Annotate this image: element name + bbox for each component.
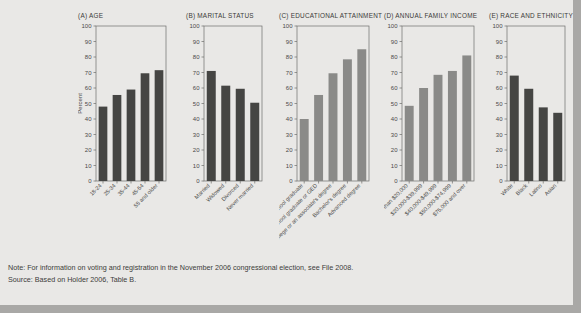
y-tick-label: 80: [391, 54, 398, 60]
y-tick-label: 20: [496, 147, 503, 153]
panel-title-b: (B) MARITAL STATUS: [186, 12, 254, 19]
y-tick-label: 0: [499, 178, 503, 184]
figure-footnotes: Note: For information on voting and regi…: [8, 262, 568, 286]
bar: [434, 75, 443, 181]
y-tick-label: 100: [81, 23, 92, 29]
bar: [207, 71, 216, 181]
bar: [250, 103, 259, 181]
figure-source: Source: Based on Holder 2006, Table B.: [8, 274, 568, 286]
x-category-label: Never married: [225, 182, 254, 211]
y-tick-label: 10: [496, 163, 503, 169]
y-tick-label: 90: [391, 39, 398, 45]
y-tick-label: 40: [85, 116, 92, 122]
y-axis-title: Percent: [78, 93, 83, 114]
x-category-label: Asian: [543, 182, 557, 196]
y-tick-label: 0: [88, 178, 92, 184]
panel-title-c: (C) EDUCATIONAL ATTAINMENT: [279, 12, 382, 19]
y-tick-label: 20: [85, 147, 92, 153]
y-tick-label: 10: [85, 163, 92, 169]
x-category-label: 35-44: [116, 182, 130, 196]
bar: [405, 106, 414, 181]
bar: [155, 70, 164, 181]
chart-svg-c: 0102030405060708090100Not a high school …: [279, 22, 373, 243]
y-tick-label: 60: [286, 85, 293, 91]
y-tick-label: 20: [286, 147, 293, 153]
y-tick-label: 30: [496, 132, 503, 138]
bar: [539, 107, 548, 181]
bar: [448, 71, 457, 181]
y-tick-label: 70: [85, 70, 92, 76]
y-tick-label: 60: [496, 85, 503, 91]
y-tick-label: 100: [189, 23, 200, 29]
y-tick-label: 30: [391, 132, 398, 138]
y-tick-label: 90: [286, 39, 293, 45]
y-tick-label: 10: [193, 163, 200, 169]
y-tick-label: 50: [496, 101, 503, 107]
y-tick-label: 80: [286, 54, 293, 60]
y-tick-label: 50: [391, 101, 398, 107]
page-shadow-bottom: [0, 305, 581, 313]
y-tick-label: 80: [496, 54, 503, 60]
y-tick-label: 100: [492, 23, 503, 29]
y-tick-label: 80: [193, 54, 200, 60]
x-category-label: 25-34: [102, 182, 116, 196]
y-tick-label: 50: [193, 101, 200, 107]
bar: [113, 95, 122, 181]
bar: [553, 113, 562, 181]
y-tick-label: 70: [391, 70, 398, 76]
bar: [510, 76, 519, 181]
chart-svg-e: 0102030405060708090100WhiteBlackLatinoAs…: [489, 22, 569, 243]
bar: [300, 119, 309, 181]
y-tick-label: 90: [496, 39, 503, 45]
y-tick-label: 30: [193, 132, 200, 138]
bar: [141, 73, 150, 181]
y-tick-label: 80: [85, 54, 92, 60]
y-tick-label: 30: [85, 132, 92, 138]
bar: [314, 95, 323, 181]
y-tick-label: 0: [394, 178, 398, 184]
y-tick-label: 70: [496, 70, 503, 76]
y-tick-label: 100: [282, 23, 293, 29]
y-tick-label: 40: [193, 116, 200, 122]
y-tick-label: 30: [286, 132, 293, 138]
bar: [419, 88, 428, 181]
y-tick-label: 0: [196, 178, 200, 184]
bar: [127, 90, 136, 181]
panel-title-d: (D) ANNUAL FAMILY INCOME: [384, 12, 477, 19]
panel-title-a: (A) AGE: [78, 12, 103, 19]
y-tick-label: 40: [286, 116, 293, 122]
y-tick-label: 70: [193, 70, 200, 76]
y-tick-label: 90: [193, 39, 200, 45]
bar: [99, 107, 108, 181]
chart-svg-d: 0102030405060708090100Less than $20,000$…: [384, 22, 478, 243]
y-tick-label: 40: [496, 116, 503, 122]
y-tick-label: 50: [286, 101, 293, 107]
y-tick-label: 90: [85, 39, 92, 45]
bar: [343, 59, 352, 181]
figure-note: Note: For information on voting and regi…: [8, 262, 568, 274]
y-tick-label: 0: [289, 178, 293, 184]
y-tick-label: 10: [391, 163, 398, 169]
y-tick-label: 60: [391, 85, 398, 91]
y-tick-label: 10: [286, 163, 293, 169]
y-tick-label: 40: [391, 116, 398, 122]
bar: [357, 49, 366, 181]
x-category-label: 18-24: [88, 182, 102, 196]
y-tick-label: 60: [193, 85, 200, 91]
x-category-label: Latino: [528, 182, 543, 197]
y-tick-label: 70: [286, 70, 293, 76]
bar: [329, 73, 338, 181]
panel-title-e: (E) RACE AND ETHNICITY: [489, 12, 573, 19]
figure-page: (A) AGE010203040506070809010018-2425-343…: [0, 0, 573, 305]
chart-svg-a: 010203040506070809010018-2425-3435-4445-…: [78, 22, 170, 243]
y-tick-label: 20: [391, 147, 398, 153]
bar: [221, 86, 230, 181]
x-category-label: White: [500, 182, 514, 196]
bar: [524, 89, 533, 181]
charts-area: (A) AGE010203040506070809010018-2425-343…: [0, 0, 573, 258]
y-tick-label: 100: [387, 23, 398, 29]
y-tick-label: 50: [85, 101, 92, 107]
bar: [462, 55, 471, 181]
chart-svg-b: 0102030405060708090100MarriedWidowedDivo…: [186, 22, 266, 243]
x-category-label: Black: [515, 182, 529, 196]
